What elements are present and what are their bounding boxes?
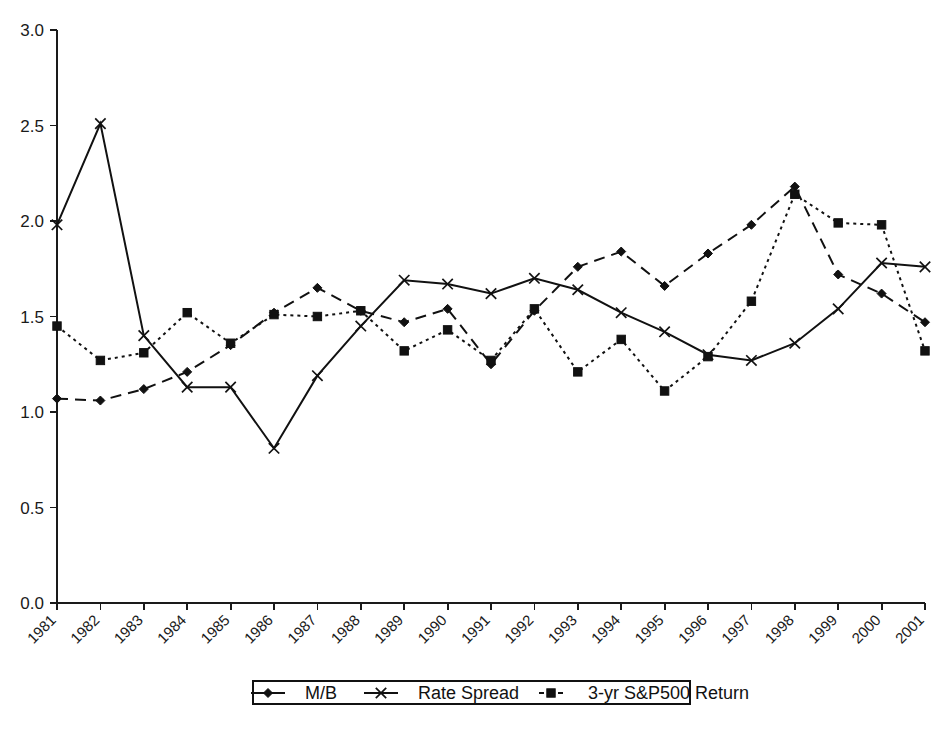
x-tick-label-1999: 1999 xyxy=(805,611,841,647)
data-point-marker xyxy=(747,297,755,305)
data-point-marker xyxy=(96,396,105,405)
x-tick-label-1992: 1992 xyxy=(501,611,537,647)
data-point-marker xyxy=(140,349,148,357)
data-point-marker xyxy=(357,307,365,315)
x-tick-label-1991: 1991 xyxy=(458,611,494,647)
data-point-marker xyxy=(96,356,104,364)
data-point-marker xyxy=(659,327,669,337)
data-point-marker xyxy=(616,307,626,317)
data-point-marker xyxy=(312,371,322,381)
x-tick-label-2001: 2001 xyxy=(892,611,928,647)
data-point-marker xyxy=(877,221,885,229)
x-tick-label-1984: 1984 xyxy=(154,611,190,647)
x-tick-label-1989: 1989 xyxy=(371,611,407,647)
y-tick-label: 0.5 xyxy=(20,499,44,518)
y-tick-label: 1.0 xyxy=(20,403,44,422)
x-tick-label-1987: 1987 xyxy=(284,611,320,647)
legend-label: M/B xyxy=(305,683,337,703)
data-point-marker xyxy=(400,347,408,355)
x-axis: 1981198219831984198519861987198819891990… xyxy=(24,603,928,647)
data-point-marker xyxy=(183,308,191,316)
y-tick-label: 2.0 xyxy=(20,212,44,231)
data-point-marker xyxy=(53,394,62,403)
series-rate-spread xyxy=(52,118,930,453)
data-point-marker xyxy=(617,335,625,343)
x-tick-label-1997: 1997 xyxy=(718,611,754,647)
data-series-group xyxy=(52,118,930,453)
y-tick-label: 0.0 xyxy=(20,594,44,613)
legend-label: 3-yr S&P500 Return xyxy=(588,683,749,703)
data-point-marker xyxy=(313,312,321,320)
x-tick-label-1986: 1986 xyxy=(241,611,277,647)
data-point-marker xyxy=(834,219,842,227)
data-point-marker xyxy=(660,387,668,395)
chart-legend: M/BRate Spread3-yr S&P500 Return xyxy=(251,681,749,704)
data-point-marker xyxy=(226,339,234,347)
data-point-marker xyxy=(269,443,279,453)
data-point-marker xyxy=(183,367,192,376)
data-point-marker xyxy=(356,321,366,331)
data-point-marker xyxy=(574,368,582,376)
chart-container: 0.00.51.01.52.02.53.0 198119821983198419… xyxy=(0,0,944,731)
data-point-marker xyxy=(270,310,278,318)
data-point-marker xyxy=(791,190,799,198)
data-point-marker xyxy=(617,247,626,256)
x-tick-label-1982: 1982 xyxy=(67,611,103,647)
x-tick-label-2000: 2000 xyxy=(848,611,884,647)
data-point-marker xyxy=(530,305,538,313)
data-point-marker xyxy=(573,262,582,271)
legend-label: Rate Spread xyxy=(418,683,519,703)
data-point-marker xyxy=(443,326,451,334)
data-point-marker xyxy=(833,304,843,314)
data-point-marker xyxy=(313,283,322,292)
y-axis: 0.00.51.01.52.02.53.0 xyxy=(20,21,57,613)
x-tick-label-1998: 1998 xyxy=(761,611,797,647)
data-point-marker xyxy=(790,338,800,348)
data-point-marker xyxy=(53,322,61,330)
x-tick-label-1996: 1996 xyxy=(675,611,711,647)
data-point-marker xyxy=(921,347,929,355)
x-tick-label-1985: 1985 xyxy=(197,611,233,647)
line-chart: 0.00.51.01.52.02.53.0 198119821983198419… xyxy=(0,0,944,731)
x-tick-label-1993: 1993 xyxy=(544,611,580,647)
data-point-marker xyxy=(400,318,409,327)
data-point-marker xyxy=(834,270,843,279)
x-tick-label-1983: 1983 xyxy=(110,611,146,647)
x-tick-label-1988: 1988 xyxy=(327,611,363,647)
x-tick-label-1990: 1990 xyxy=(414,611,450,647)
y-tick-label: 2.5 xyxy=(20,117,44,136)
x-tick-label-1994: 1994 xyxy=(588,611,624,647)
data-point-marker xyxy=(139,385,148,394)
y-tick-label: 3.0 xyxy=(20,21,44,40)
data-point-marker xyxy=(487,356,495,364)
series-line xyxy=(57,124,925,449)
x-tick-label-1995: 1995 xyxy=(631,611,667,647)
legend-marker xyxy=(547,689,555,697)
data-point-marker xyxy=(704,352,712,360)
x-tick-label-1981: 1981 xyxy=(24,611,60,647)
y-tick-label: 1.5 xyxy=(20,308,44,327)
